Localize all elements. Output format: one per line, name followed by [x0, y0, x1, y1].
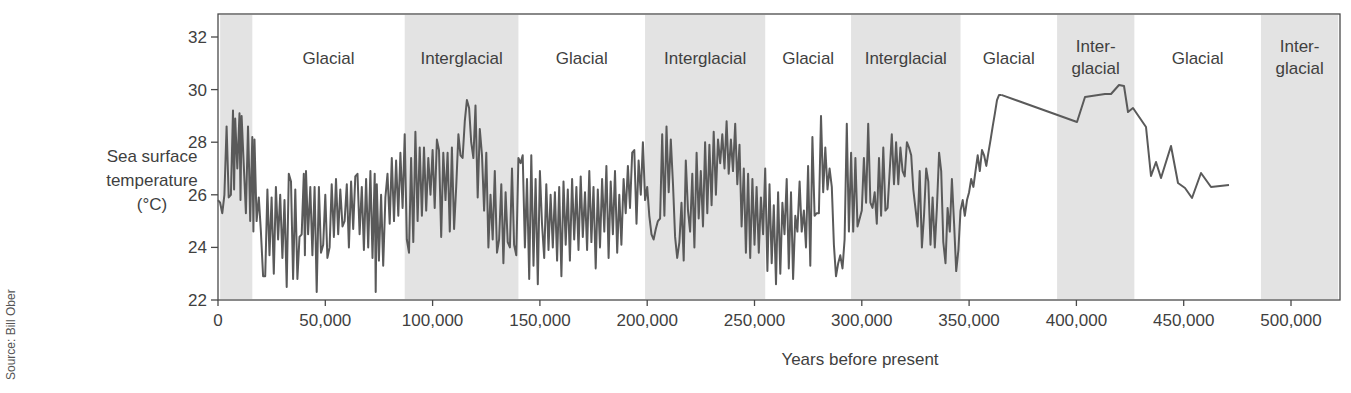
- interglacial-band: [1057, 15, 1134, 299]
- x-tick-label: 100,000: [402, 311, 463, 330]
- period-label: Inter-: [1280, 37, 1320, 56]
- y-axis-title-line-2: temperature: [96, 169, 208, 193]
- period-label: Glacial: [556, 49, 608, 68]
- x-tick-label: 300,000: [831, 311, 892, 330]
- x-tick-label: 200,000: [616, 311, 677, 330]
- x-axis: 050,000100,000150,000200,000250,000300,0…: [213, 300, 1321, 330]
- y-axis-title-line-1: Sea surface: [96, 145, 208, 169]
- y-tick-label: 22: [188, 291, 207, 310]
- x-tick-label: 50,000: [299, 311, 351, 330]
- source-credit: Source: Bill Ober: [4, 300, 24, 380]
- x-tick-label: 400,000: [1046, 311, 1107, 330]
- y-axis-title: Sea surface temperature (°C): [96, 145, 208, 217]
- period-label: Glacial: [1172, 49, 1224, 68]
- period-label: Glacial: [782, 49, 834, 68]
- x-tick-label: 500,000: [1260, 311, 1321, 330]
- period-label: Interglacial: [420, 49, 502, 68]
- x-tick-label: 350,000: [938, 311, 999, 330]
- period-label: Glacial: [303, 49, 355, 68]
- period-label: Interglacial: [664, 49, 746, 68]
- period-label: glacial: [1275, 59, 1323, 78]
- x-axis-title: Years before present: [600, 350, 1120, 370]
- period-label: Glacial: [983, 49, 1035, 68]
- interglacial-band: [1261, 15, 1338, 299]
- y-tick-label: 30: [188, 81, 207, 100]
- period-label: Inter-: [1076, 37, 1116, 56]
- x-tick-label: 250,000: [724, 311, 785, 330]
- y-tick-label: 24: [188, 238, 207, 257]
- period-label: glacial: [1072, 59, 1120, 78]
- x-tick-label: 150,000: [509, 311, 570, 330]
- x-tick-label: 0: [213, 311, 222, 330]
- period-label: Interglacial: [865, 49, 947, 68]
- x-tick-label: 450,000: [1153, 311, 1214, 330]
- y-tick-label: 32: [188, 28, 207, 47]
- y-axis-title-line-3: (°C): [96, 193, 208, 217]
